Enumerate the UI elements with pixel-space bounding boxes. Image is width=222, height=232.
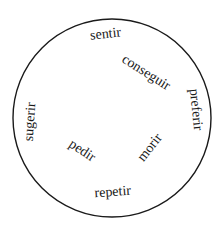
word-preferir: preferir xyxy=(187,88,206,132)
verb-circle-diagram: sentir conseguir preferir sugerir pedir … xyxy=(0,0,222,232)
word-repetir: repetir xyxy=(94,183,132,201)
word-sugerir: sugerir xyxy=(21,101,39,141)
word-conseguir: conseguir xyxy=(119,51,173,93)
word-morir: morir xyxy=(134,130,165,164)
word-pedir: pedir xyxy=(66,136,99,165)
word-sentir: sentir xyxy=(89,24,122,42)
